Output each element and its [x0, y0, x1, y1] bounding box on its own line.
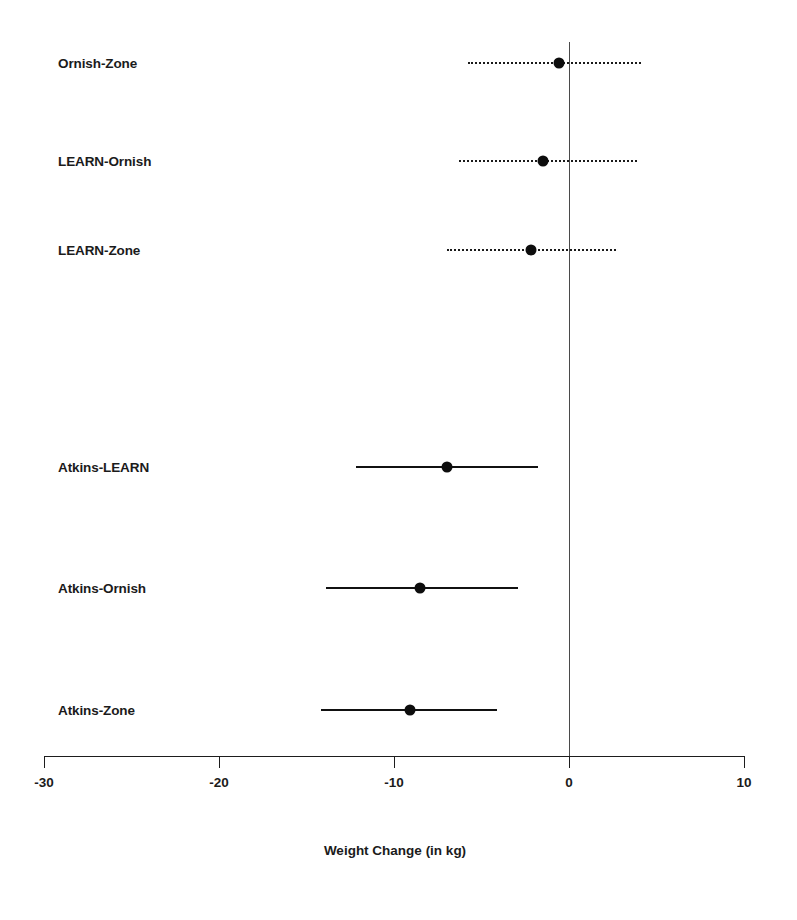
x-axis-tick-label-0: 0 [565, 775, 573, 790]
x-axis-tick-label-neg20: -20 [209, 775, 229, 790]
row-label-learn-ornish: LEARN-Ornish [58, 154, 151, 169]
row-label-atkins-learn: Atkins-LEARN [58, 460, 149, 475]
zero-reference-line [569, 42, 570, 756]
point-estimate-atkins-zone [404, 705, 415, 716]
forest-plot: Ornish-ZoneLEARN-OrnishLEARN-ZoneAtkins-… [0, 0, 797, 920]
x-axis-title: Weight Change (in kg) [324, 843, 466, 858]
x-axis-tick-neg10 [394, 756, 395, 768]
x-axis-tick-neg30 [44, 756, 45, 768]
row-label-atkins-zone: Atkins-Zone [58, 703, 135, 718]
x-axis-tick-label-neg10: -10 [384, 775, 404, 790]
point-estimate-atkins-ornish [415, 583, 426, 594]
x-axis-tick-label-10: 10 [736, 775, 751, 790]
x-axis-tick-10 [744, 756, 745, 768]
point-estimate-atkins-learn [441, 462, 452, 473]
row-label-learn-zone: LEARN-Zone [58, 243, 140, 258]
point-estimate-learn-ornish [537, 156, 548, 167]
row-label-ornish-zone: Ornish-Zone [58, 56, 137, 71]
x-axis-tick-0 [569, 756, 570, 768]
x-axis-tick-neg20 [219, 756, 220, 768]
point-estimate-learn-zone [525, 245, 536, 256]
x-axis-tick-label-neg30: -30 [34, 775, 54, 790]
point-estimate-ornish-zone [553, 58, 564, 69]
row-label-atkins-ornish: Atkins-Ornish [58, 581, 146, 596]
